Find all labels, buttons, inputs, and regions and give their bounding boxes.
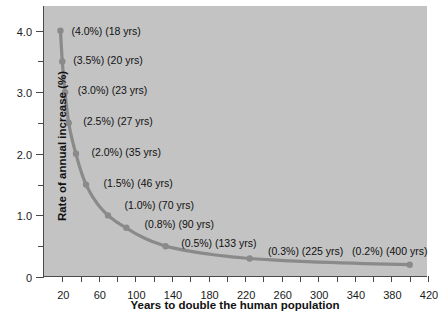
x-axis-tick — [410, 276, 411, 282]
x-axis-tick: 100 — [135, 276, 136, 282]
data-point — [123, 225, 129, 231]
x-axis-tick: 260 — [282, 276, 283, 282]
plot-area: 01.02.03.04.0 20601001401802202603003403… — [43, 6, 427, 277]
y-axis-minor-tick — [38, 185, 44, 186]
point-annotation: (0.2%) (400 yrs) — [352, 245, 427, 257]
y-axis-tick: 4.0 — [36, 31, 44, 32]
x-axis-tick: 380 — [391, 276, 392, 282]
y-axis-tick: 1.0 — [36, 215, 44, 216]
x-axis-tick — [337, 276, 338, 282]
y-axis-tick: 0 — [36, 277, 44, 278]
x-axis-tick — [300, 276, 301, 282]
point-annotation: (3.0%) (23 yrs) — [78, 84, 147, 96]
population-doubling-chart: 01.02.03.04.0 20601001401802202603003403… — [0, 0, 444, 321]
point-annotation: (0.8%) (90 yrs) — [145, 218, 214, 230]
y-axis-tick-label: 3.0 — [17, 87, 32, 99]
x-axis-tick: 300 — [318, 276, 319, 282]
x-axis-tick — [190, 276, 191, 282]
y-axis-tick-label: 0 — [26, 272, 32, 284]
x-axis-tick — [227, 276, 228, 282]
x-axis-tick — [373, 276, 374, 282]
y-axis-tick: 2.0 — [36, 154, 44, 155]
x-axis-tick — [117, 276, 118, 282]
x-axis-tick — [81, 276, 82, 282]
point-annotation: (3.5%) (20 yrs) — [73, 54, 142, 66]
x-axis-tick: 140 — [172, 276, 173, 282]
y-axis-minor-tick — [38, 246, 44, 247]
data-point — [83, 181, 89, 187]
x-axis-tick: 20 — [62, 276, 63, 282]
x-axis-tick — [263, 276, 264, 282]
y-axis-tick-label: 1.0 — [17, 210, 32, 222]
data-point — [247, 255, 253, 261]
y-axis-minor-tick — [38, 61, 44, 62]
x-axis-tick: 180 — [209, 276, 210, 282]
data-point — [57, 27, 63, 33]
point-annotation: (1.0%) (70 yrs) — [124, 199, 193, 211]
y-axis-tick-label: 4.0 — [17, 26, 32, 38]
x-axis-tick: 420 — [428, 276, 429, 282]
point-annotation: (2.0%) (35 yrs) — [92, 146, 161, 158]
y-axis-tick: 3.0 — [36, 92, 44, 93]
y-axis-tick-label: 2.0 — [17, 149, 32, 161]
y-axis-title: Rate of annual increase (%) — [56, 46, 68, 246]
point-annotation: (1.5%) (46 yrs) — [103, 177, 172, 189]
x-axis-tick: 340 — [355, 276, 356, 282]
data-point — [73, 151, 79, 157]
x-axis-tick: 60 — [99, 276, 100, 282]
data-point — [407, 261, 413, 267]
x-axis-tick — [154, 276, 155, 282]
point-annotation: (2.5%) (27 yrs) — [83, 115, 152, 127]
point-annotation: (4.0%) (18 yrs) — [71, 25, 140, 37]
data-point — [105, 212, 111, 218]
point-annotation: (0.5%) (133 yrs) — [181, 237, 256, 249]
x-axis-title: Years to double the human population — [43, 299, 427, 311]
x-axis-tick: 220 — [245, 276, 246, 282]
y-axis-minor-tick — [38, 123, 44, 124]
data-point — [162, 243, 168, 249]
point-annotation: (0.3%) (225 yrs) — [268, 245, 343, 257]
